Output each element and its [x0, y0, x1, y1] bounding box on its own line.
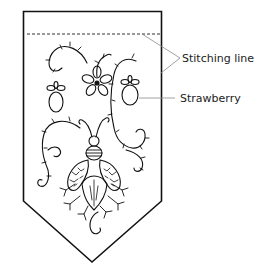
label-stitching-line: Stitching line: [182, 53, 254, 64]
bee: [60, 136, 128, 234]
vine-top-left: [49, 47, 87, 71]
leader-lines: [139, 34, 180, 98]
strawberry-left: [47, 82, 65, 113]
banner-illustration: [0, 0, 271, 276]
diagram-canvas: Stitching line Strawberry: [0, 0, 271, 276]
vine-flower-stem: [97, 54, 111, 77]
strawberry-right: [121, 76, 139, 106]
vine-lower-left: [38, 121, 80, 186]
label-strawberry: Strawberry: [180, 93, 241, 104]
vine-right: [111, 59, 145, 148]
